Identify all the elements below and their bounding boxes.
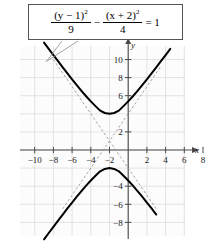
fraction-left: (y − 1)2 9 xyxy=(51,9,91,35)
fraction-right-numerator: (x + 2)2 xyxy=(103,9,143,22)
x-tick-label: −6 xyxy=(67,155,77,165)
y-tick-label: 10 xyxy=(114,55,124,65)
fraction-left-numerator: (y − 1)2 xyxy=(51,9,91,22)
x-tick-label: −8 xyxy=(49,155,59,165)
fraction-left-denominator: 9 xyxy=(51,23,91,35)
y-tick-label: 8 xyxy=(118,73,123,83)
fraction-right: (x + 2)2 4 xyxy=(103,9,143,35)
minus-operator: − xyxy=(91,16,103,28)
x-tick-label: −2 xyxy=(105,155,115,165)
numerator-right-text: (x + 2) xyxy=(106,9,136,21)
y-tick-label: 2 xyxy=(118,127,123,137)
equation-rhs: = 1 xyxy=(142,16,159,28)
x-tick-label: −10 xyxy=(28,155,43,165)
numerator-left-text: (y − 1) xyxy=(54,9,84,21)
x-axis-name: x xyxy=(194,145,199,155)
y-tick-label: −6 xyxy=(113,200,123,210)
equation-callout-box: (y − 1)2 9 − (x + 2)2 4 = 1 xyxy=(28,4,183,40)
y-tick-label: 6 xyxy=(118,91,123,101)
hyperbola-figure: −10−8−6−4−2246810862−4−6−8 x y (y − 1)2 … xyxy=(0,0,212,243)
fraction-right-denominator: 4 xyxy=(103,23,143,35)
y-axis-name: y xyxy=(130,40,135,50)
x-tick-label: 2 xyxy=(145,155,150,165)
y-tick-label: −8 xyxy=(113,218,123,228)
numerator-right-exponent: 2 xyxy=(136,9,140,17)
x-tick-label: 8 xyxy=(201,155,206,165)
plot-background xyxy=(20,46,185,236)
equation: (y − 1)2 9 − (x + 2)2 4 = 1 xyxy=(29,5,182,39)
x-tick-label: −4 xyxy=(86,155,96,165)
x-tick-label: 4 xyxy=(163,155,168,165)
x-tick-label: 6 xyxy=(182,155,187,165)
y-tick-label: −4 xyxy=(113,181,123,191)
numerator-left-exponent: 2 xyxy=(84,9,88,17)
